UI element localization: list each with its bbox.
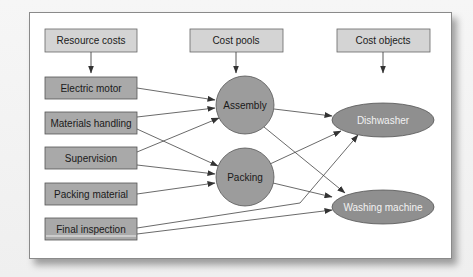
- resource-supervision: Supervision: [45, 147, 137, 169]
- resource-label: Supervision: [65, 153, 117, 164]
- cost-pool-label: Packing: [227, 172, 263, 183]
- resource-label: Electric motor: [60, 83, 122, 94]
- resource-label: Final inspection: [56, 224, 125, 235]
- cost-object-label: Washing machine: [343, 202, 423, 213]
- header-cost-pools-label: Cost pools: [212, 35, 259, 46]
- arrow-materials-handling-to-packing: [137, 129, 218, 166]
- cost-pool-packing: Packing: [216, 148, 274, 206]
- arrow-packing-material-to-packing: [137, 183, 215, 194]
- arrow-materials-handling-to-assembly: [137, 108, 215, 117]
- cost-pool-assembly: Assembly: [216, 76, 274, 134]
- header-cost-objects-label: Cost objects: [355, 35, 410, 46]
- header-resource-costs-label: Resource costs: [57, 35, 126, 46]
- arrow-packing-to-dishwasher: [270, 131, 341, 164]
- arrow-assembly-to-dishwasher: [274, 109, 332, 116]
- activity-based-costing-diagram: Resource costs Cost pools Cost objects E…: [0, 0, 473, 277]
- header-resource-costs: Resource costs: [45, 29, 137, 52]
- resource-packing-material: Packing material: [45, 183, 137, 205]
- resource-label: Materials handling: [50, 118, 131, 129]
- cost-pool-label: Assembly: [223, 100, 266, 111]
- cost-object-dishwasher: Dishwasher: [332, 103, 434, 137]
- cost-object-washing-machine: Washing machine: [332, 190, 434, 224]
- arrow-final-inspection-to-washing-machine: [137, 210, 332, 234]
- cost-object-label: Dishwasher: [357, 115, 410, 126]
- resource-electric-motor: Electric motor: [45, 77, 137, 99]
- arrow-packing-to-washing-machine: [273, 183, 332, 197]
- arrow-assembly-to-washing-machine: [264, 127, 345, 193]
- arrow-electric-motor-to-assembly: [137, 88, 215, 100]
- resource-label: Packing material: [54, 189, 128, 200]
- header-cost-pools: Cost pools: [190, 29, 283, 52]
- arrow-supervision-to-packing: [137, 165, 215, 174]
- resource-materials-handling: Materials handling: [45, 112, 137, 134]
- resource-final-inspection: Final inspection: [45, 218, 137, 240]
- header-cost-objects: Cost objects: [337, 29, 430, 52]
